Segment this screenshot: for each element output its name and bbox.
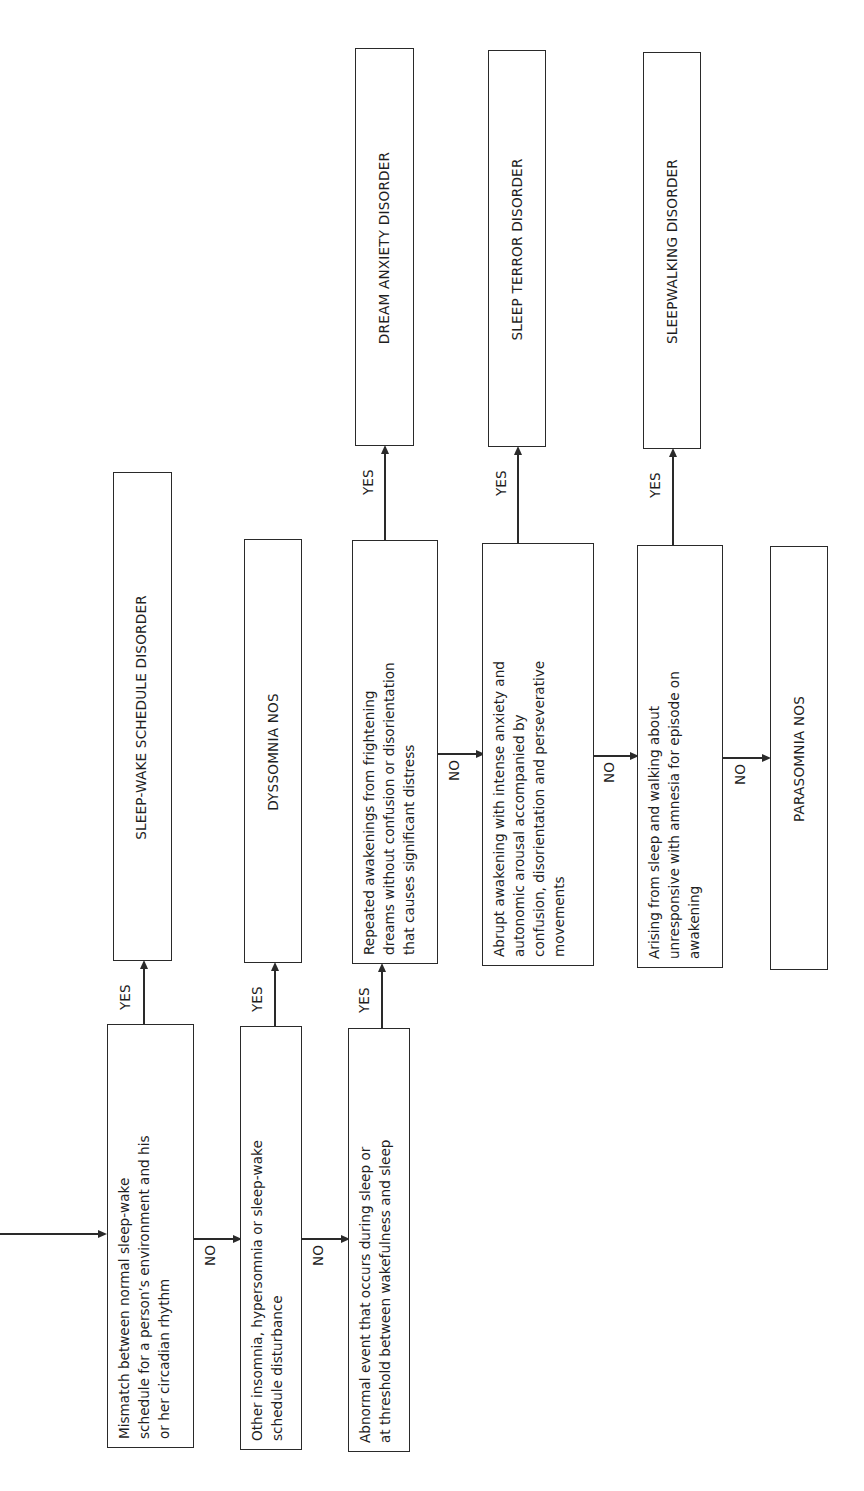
- no-connector: [723, 757, 764, 759]
- no-label: NO: [601, 762, 617, 783]
- yes-label: YES: [493, 470, 509, 496]
- outcome-box-sleep-wake-schedule-disorder: SLEEP-WAKE SCHEDULE DISORDER: [113, 472, 172, 961]
- no-connector: [438, 753, 478, 755]
- decision-box-sleepwalking: Arising from sleep and walking about unr…: [637, 545, 723, 968]
- yes-label: YES: [117, 984, 133, 1010]
- decision-box-abrupt-awakening: Abrupt awakening with intense anxiety an…: [482, 543, 594, 966]
- yes-arrow-head: [378, 963, 386, 972]
- no-connector: [302, 1238, 342, 1240]
- entry-arrow-line: [0, 1233, 100, 1235]
- no-label: NO: [202, 1245, 218, 1266]
- no-connector: [194, 1238, 234, 1240]
- outcome-box-sleepwalking-disorder: SLEEPWALKING DISORDER: [643, 52, 701, 449]
- outcome-label: SLEEPWALKING DISORDER: [663, 53, 681, 450]
- yes-connector: [274, 970, 276, 1026]
- decision-box-other-insomnia: Other insomnia, hypersomnia or sleep-wak…: [240, 1026, 302, 1450]
- decision-text: Arising from sleep and walking about unr…: [644, 556, 704, 959]
- yes-label: YES: [249, 986, 265, 1012]
- outcome-label: PARASOMNIA NOS: [790, 547, 808, 971]
- outcome-box-dream-anxiety-disorder: DREAM ANXIETY DISORDER: [355, 48, 414, 446]
- decision-box-frightening-dreams: Repeated awakenings from frightening dre…: [352, 540, 438, 964]
- yes-label: YES: [356, 987, 372, 1013]
- entry-arrow-head: [98, 1230, 107, 1238]
- yes-label: YES: [360, 469, 376, 495]
- decision-text: Repeated awakenings from frightening dre…: [359, 551, 419, 955]
- no-label: NO: [310, 1245, 326, 1266]
- yes-label: YES: [647, 472, 663, 498]
- yes-connector: [381, 971, 383, 1028]
- yes-connector: [384, 453, 386, 540]
- decision-box-abnormal-event: Abnormal event that occurs during sleep …: [348, 1028, 410, 1452]
- outcome-label: SLEEP TERROR DISORDER: [508, 51, 526, 448]
- no-label: NO: [732, 764, 748, 785]
- yes-connector: [517, 454, 519, 543]
- outcome-label: SLEEP-WAKE SCHEDULE DISORDER: [132, 473, 150, 962]
- decision-text: Abrupt awakening with intense anxiety an…: [489, 554, 569, 957]
- no-label: NO: [446, 760, 462, 781]
- outcome-label: DYSSOMNIA NOS: [264, 540, 282, 964]
- decision-text: Mismatch between normal sleep-wake sched…: [114, 1035, 174, 1439]
- no-connector: [594, 755, 632, 757]
- outcome-box-dyssomnia-nos: DYSSOMNIA NOS: [244, 539, 302, 963]
- decision-text: Other insomnia, hypersomnia or sleep-wak…: [247, 1037, 287, 1441]
- yes-connector: [672, 456, 674, 545]
- decision-box-circadian-mismatch: Mismatch between normal sleep-wake sched…: [107, 1024, 194, 1448]
- outcome-box-sleep-terror-disorder: SLEEP TERROR DISORDER: [488, 50, 546, 447]
- outcome-box-parasomnia-nos: PARASOMNIA NOS: [770, 546, 828, 970]
- decision-text: Abnormal event that occurs during sleep …: [355, 1039, 395, 1443]
- outcome-label: DREAM ANXIETY DISORDER: [375, 49, 393, 447]
- yes-connector: [143, 968, 145, 1024]
